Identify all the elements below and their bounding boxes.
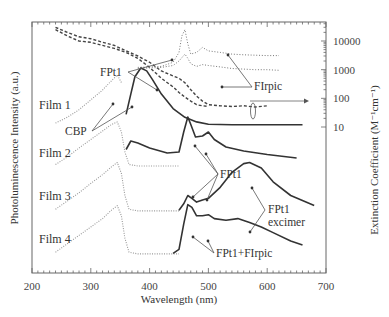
leader-excimer-1 xyxy=(252,188,265,210)
absorption-series xyxy=(56,27,280,107)
leader-firpic-2-head xyxy=(221,86,224,89)
film-label-2: Film 2 xyxy=(39,146,71,160)
annotation-fpt1-film2: FPt1 xyxy=(220,168,242,180)
leader-fpt1-film2-3-head xyxy=(192,196,195,199)
x-tick-label: 300 xyxy=(83,280,100,292)
leader-fpt1-film2-2 xyxy=(206,154,218,174)
leader-fpt1-firpic-1 xyxy=(193,237,214,253)
pl-line-film1-emission xyxy=(126,68,302,125)
y-axis-right-title: Extinction Coefficient (M⁻¹cm⁻¹) xyxy=(368,85,381,235)
leader-excimer-2-head xyxy=(249,231,252,234)
leader-fpt1-abs-1-head xyxy=(171,59,174,62)
y-right-tick-label: 1000 xyxy=(333,64,356,76)
leader-cbp-2-head xyxy=(131,106,134,109)
leader-cbp-1 xyxy=(92,104,113,131)
x-axis-title: Wavelength (nm) xyxy=(141,293,218,306)
leader-fpt1-firpic-2-head xyxy=(207,240,210,243)
y-axis-left-title: Photoluminescence Intensity (a.u.) xyxy=(8,71,21,224)
absorption-line-2 xyxy=(56,30,209,107)
leader-firpic-1-head xyxy=(227,54,230,57)
leader-excimer-2 xyxy=(250,210,265,232)
leader-fpt1-film2-1 xyxy=(195,146,218,174)
x-tick-label: 700 xyxy=(318,280,335,292)
annotation-cbp: CBP xyxy=(65,125,87,137)
pl-line-film3-emission xyxy=(179,163,314,211)
pl-line-film3-cbp xyxy=(56,163,180,211)
plot-frame xyxy=(32,22,326,273)
leader-fpt1-film2-4-head xyxy=(206,199,209,202)
y-right-tick-label: 10 xyxy=(333,121,345,133)
y-right-tick-label: 100 xyxy=(333,92,350,104)
leader-cbp-1-head xyxy=(112,103,115,106)
leader-fpt1-film2-2-head xyxy=(205,153,208,156)
leader-fpt1-firpic-1-head xyxy=(192,236,195,239)
pl-line-film4-cbp xyxy=(56,206,180,254)
x-tick-label: 600 xyxy=(259,280,276,292)
x-tick-label: 200 xyxy=(24,280,41,292)
leader-cbp-2 xyxy=(92,107,132,131)
leader-fpt1-film2-1-head xyxy=(194,145,197,148)
y-right-tick-label: 10000 xyxy=(333,35,361,47)
x-tick-label: 400 xyxy=(141,280,158,292)
film-label-4: Film 4 xyxy=(39,232,71,246)
chart: 20030040050060070010100100010000 Wavelen… xyxy=(0,0,389,317)
absorption-line-4 xyxy=(138,54,279,70)
series-marker-ellipse xyxy=(251,103,256,119)
leader-fpt1-film2-4 xyxy=(207,174,218,200)
x-tick-label: 500 xyxy=(200,280,217,292)
annotation-fpt1-excimer-line1: FPt1 xyxy=(268,203,290,215)
annotation-fpt1-firpic: FPt1+FIrpic xyxy=(216,247,272,260)
leader-firpic-1 xyxy=(228,55,252,87)
annotation-firpic-absorption: FIrpic xyxy=(254,80,282,93)
axes: 20030040050060070010100100010000 xyxy=(24,22,361,292)
film-label-1: Film 1 xyxy=(39,98,71,112)
annotation-fpt1-absorption: FPt1 xyxy=(100,66,122,78)
leader-excimer-1-head xyxy=(251,187,254,190)
film-label-3: Film 3 xyxy=(39,189,71,203)
pl-line-film2-emission xyxy=(126,117,297,158)
leader-fpt1-abs-2-head xyxy=(156,89,159,92)
right-axis-arrow-head xyxy=(304,99,309,104)
absorption-line-3 xyxy=(138,30,279,68)
annotation-fpt1-excimer-line2: excimer xyxy=(268,216,305,228)
